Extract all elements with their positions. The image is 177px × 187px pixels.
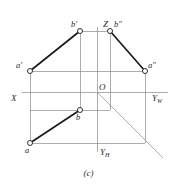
technical-drawing-canvas — [0, 0, 177, 187]
point-label-a-prime: a′ — [16, 61, 22, 70]
axis-label-yw-subscript: W — [157, 97, 162, 104]
point-label-a: a — [25, 146, 29, 155]
point-label-b-prime: b′ — [71, 20, 77, 29]
point-label-a-double-prime-mark: ″ — [152, 60, 156, 70]
point-label-b-double-prime-mark: ″ — [118, 19, 122, 29]
b-prime-marker — [78, 29, 83, 34]
point-markers — [28, 29, 148, 146]
origin-label-o-text: O — [99, 82, 106, 92]
figure-caption-text: (c) — [84, 168, 94, 178]
point-label-a-double-prime: a″ — [148, 61, 156, 70]
axis-label-x: X — [11, 94, 17, 103]
axis-label-yh: YH — [100, 148, 109, 158]
origin-label-o: O — [99, 83, 106, 92]
point-label-b-text: b — [76, 112, 80, 122]
a-prime-marker — [28, 69, 33, 74]
axis-label-x-text: X — [11, 93, 17, 103]
thick-segment-lines — [30, 31, 145, 143]
axis-label-z: Z — [103, 20, 108, 29]
point-label-b-double-prime: b″ — [114, 20, 122, 29]
ab-top-view-segment — [30, 110, 80, 143]
axis-label-yh-subscript: H — [105, 151, 109, 158]
axis-label-yw: YW — [152, 94, 162, 104]
projection-figure: Z X YW YH O b′ b″ a′ a″ b a (c) — [0, 0, 177, 187]
ab-front-view-segment — [30, 31, 80, 71]
a-double-prime-marker — [143, 69, 148, 74]
point-label-a-prime-mark: ′ — [20, 60, 22, 70]
point-label-a-text: a — [25, 145, 29, 155]
point-label-b-prime-mark: ′ — [75, 19, 77, 29]
b-double-prime-marker — [108, 29, 113, 34]
ab-side-view-segment — [110, 31, 145, 71]
figure-caption: (c) — [0, 168, 177, 178]
point-label-b: b — [76, 113, 80, 122]
axis-label-z-text: Z — [103, 19, 108, 29]
